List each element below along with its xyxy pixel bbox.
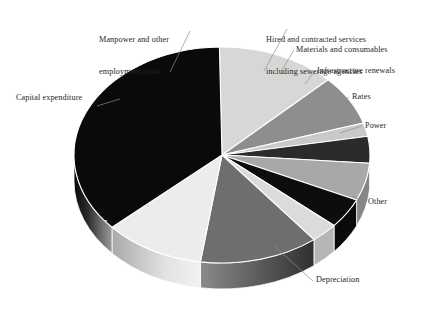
- label-hired-line1: Hired and contracted services: [266, 35, 366, 46]
- label-infrastructure: Infrastructure renewals: [317, 66, 395, 77]
- label-depreciation: Depreciation: [316, 275, 359, 286]
- label-capital-expenditure: Capital expenditure: [16, 93, 82, 104]
- label-materials: Materials and consumables: [296, 45, 388, 56]
- label-other: Other: [368, 197, 387, 208]
- label-hired-services: Hired and contracted services including …: [266, 14, 366, 98]
- label-manpower-line1: Manpower and other: [99, 35, 169, 46]
- label-manpower: Manpower and other employment costs: [99, 14, 169, 98]
- label-manpower-line2: employment costs: [99, 67, 169, 78]
- label-power: Power: [365, 121, 386, 132]
- label-rates: Rates: [352, 92, 371, 103]
- pie-chart-figure: Manpower and other employment costs Hire…: [0, 0, 437, 314]
